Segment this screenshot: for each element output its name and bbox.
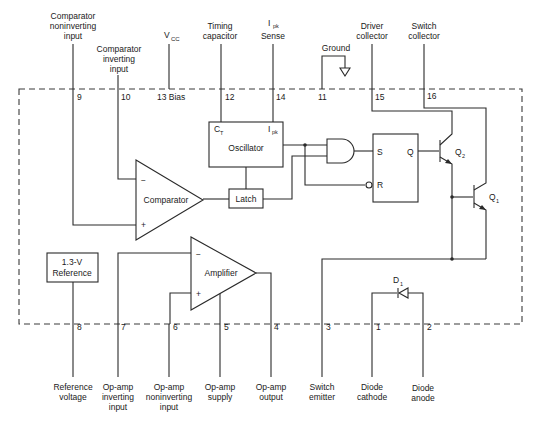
pin-number-8: 8 (77, 322, 82, 332)
svg-text:Op-amp: Op-amp (154, 382, 185, 392)
pin-3-label: Switch emitter (309, 382, 335, 402)
svg-text:Sense: Sense (261, 31, 285, 41)
svg-text:1: 1 (496, 198, 499, 204)
svg-text:inverting: inverting (103, 54, 135, 64)
svg-text:S: S (377, 147, 383, 157)
svg-text:−: − (141, 175, 146, 185)
svg-text:−: − (196, 249, 201, 259)
svg-text:Amplifier: Amplifier (204, 268, 237, 278)
svg-text:inverting: inverting (102, 392, 134, 402)
svg-text:CC: CC (171, 36, 180, 42)
transistor-q1: Q 1 (424, 89, 499, 259)
svg-text:Diode: Diode (361, 382, 383, 392)
pin-number-11: 11 (318, 92, 327, 102)
svg-text:anode: anode (411, 393, 435, 403)
pin-14-label: I pk Sense (261, 18, 285, 41)
flipflop-block: S R Q (366, 134, 418, 202)
amplifier-block: − + Amplifier (191, 237, 256, 310)
svg-text:Comparator: Comparator (97, 44, 142, 54)
pin-15-label: Driver collector (356, 21, 388, 41)
svg-text:Op-amp: Op-amp (103, 382, 134, 392)
svg-text:emitter: emitter (309, 392, 335, 402)
svg-text:Comparator: Comparator (51, 11, 96, 21)
svg-text:cathode: cathode (357, 392, 388, 402)
svg-text:Reference: Reference (53, 382, 92, 392)
diode-d1: D 1 (372, 275, 423, 324)
pin-2-label: Diode anode (411, 383, 435, 403)
svg-text:pk: pk (273, 23, 279, 29)
svg-text:output: output (259, 392, 283, 402)
pin-5-label: Op-amp supply (205, 382, 236, 402)
svg-text:voltage: voltage (59, 392, 87, 402)
svg-text:capacitor: capacitor (203, 31, 238, 41)
pin-number-9: 9 (77, 92, 82, 102)
ground-icon (322, 56, 350, 89)
svg-text:R: R (377, 180, 383, 190)
svg-text:Op-amp: Op-amp (256, 382, 287, 392)
oscillator-block: C T I pk Oscillator (209, 122, 283, 167)
svg-text:+: + (141, 220, 146, 230)
pin-number-12: 12 (225, 92, 235, 102)
pin-10-label: Comparator inverting input (97, 44, 142, 74)
svg-text:1: 1 (400, 281, 403, 287)
svg-text:input: input (109, 402, 128, 412)
svg-text:noninverting: noninverting (146, 392, 193, 402)
svg-text:input: input (110, 64, 129, 74)
pin-number-7: 7 (121, 322, 126, 332)
pin-number-5: 5 (224, 322, 229, 332)
svg-text:Latch: Latch (236, 194, 257, 204)
svg-text:collector: collector (408, 31, 440, 41)
svg-text:Diode: Diode (412, 383, 434, 393)
svg-text:1.3-V: 1.3-V (62, 257, 83, 267)
svg-text:Reference: Reference (52, 268, 91, 278)
svg-text:Q: Q (407, 147, 414, 157)
svg-text:Ground: Ground (322, 43, 351, 53)
pin-number-14: 14 (276, 92, 286, 102)
svg-text:Op-amp: Op-amp (205, 382, 236, 392)
pin-number-3: 3 (326, 322, 331, 332)
pin-1-label: Diode cathode (357, 382, 388, 402)
pin-number-15: 15 (375, 92, 385, 102)
pin-number-6: 6 (173, 322, 178, 332)
svg-text:noninverting: noninverting (50, 21, 97, 31)
pin-number-10: 10 (121, 92, 131, 102)
svg-text:V: V (164, 30, 170, 40)
svg-text:I: I (268, 124, 270, 134)
svg-text:input: input (160, 402, 179, 412)
svg-text:input: input (64, 31, 83, 41)
pin-7-label: Op-amp inverting input (102, 382, 134, 412)
pin-8-label: Reference voltage (53, 382, 92, 402)
svg-text:supply: supply (208, 392, 233, 402)
comparator-block: − + Comparator (136, 160, 203, 240)
svg-text:collector: collector (356, 31, 388, 41)
pin-13-label: V CC (164, 30, 180, 42)
pin-number-1: 1 (376, 322, 381, 332)
pin-number-2: 2 (427, 322, 432, 332)
svg-text:Comparator: Comparator (144, 195, 189, 205)
pin-16-label: Switch collector (408, 21, 440, 41)
svg-text:+: + (196, 289, 201, 299)
svg-text:D: D (393, 275, 399, 285)
svg-text:Switch: Switch (411, 21, 436, 31)
pin-number-4: 4 (274, 322, 279, 332)
svg-text:Timing: Timing (207, 21, 232, 31)
pin-4-label: Op-amp output (256, 382, 287, 402)
and-gate (327, 139, 354, 163)
svg-text:Switch: Switch (309, 382, 334, 392)
latch-block: Latch (229, 189, 263, 208)
pin-12-label: Timing capacitor (203, 21, 238, 41)
svg-text:Oscillator: Oscillator (228, 143, 264, 153)
svg-text:pk: pk (272, 129, 278, 135)
svg-text:Driver: Driver (361, 21, 384, 31)
svg-text:Q: Q (489, 192, 496, 202)
pin-number-16: 16 (427, 91, 437, 101)
reference-block: 1.3-V Reference (47, 253, 98, 282)
svg-text:I: I (268, 18, 270, 28)
svg-text:2: 2 (462, 153, 465, 159)
pin-9-label: Comparator noninverting input (50, 11, 97, 41)
svg-text:Q: Q (455, 147, 462, 157)
pin-number-13: 13 Bias (157, 92, 185, 102)
block-diagram: Comparator noninverting input Comparator… (0, 0, 538, 424)
pin-11-label: Ground (322, 43, 351, 53)
pin-6-label: Op-amp noninverting input (146, 382, 193, 412)
